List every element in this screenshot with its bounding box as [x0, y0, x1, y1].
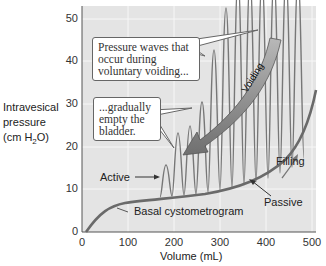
callout-empty-bladder: ...gradually empty the bladder.	[93, 97, 161, 141]
label-filling: Filling	[276, 155, 305, 167]
y-tick: 30	[62, 97, 78, 109]
x-tick: 400	[251, 236, 281, 248]
x-tick: 100	[113, 236, 143, 248]
y-tick: 50	[62, 12, 78, 24]
y-tick: 20	[62, 140, 78, 152]
callout-pressure-waves: Pressure waves that occur during volunta…	[92, 37, 200, 81]
x-tick: 500	[297, 236, 326, 248]
x-tick: 0	[67, 236, 97, 248]
x-tick: 200	[159, 236, 189, 248]
label-active: Active	[100, 171, 130, 183]
label-basal: Basal cystometrogram	[134, 205, 243, 217]
y-tick: 10	[62, 182, 78, 194]
x-axis-label: Volume (mL)	[160, 250, 222, 262]
x-tick: 300	[205, 236, 235, 248]
y-tick: 40	[62, 54, 78, 66]
label-passive: Passive	[264, 196, 303, 208]
y-axis-label: Intravesical pressure (cm H2O)	[3, 100, 59, 149]
